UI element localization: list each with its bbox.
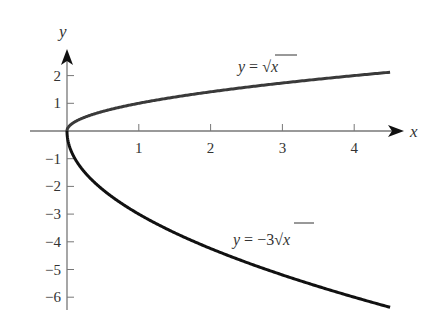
- y-tick-label: 1: [54, 95, 62, 111]
- curve-sqrt-x: [67, 72, 390, 131]
- y-tick-label: −1: [45, 151, 61, 167]
- y-ticks: 21−1−2−3−4−5−6: [45, 68, 74, 306]
- curve-neg-3-sqrt-x: [67, 131, 390, 307]
- x-tick-label: 4: [350, 140, 358, 156]
- y-tick-label: −3: [45, 206, 61, 222]
- y-tick-label: 2: [54, 68, 62, 84]
- y-axis-label: y: [57, 22, 67, 41]
- x-axis-label: x: [409, 122, 418, 141]
- x-ticks: 1234: [135, 124, 358, 156]
- y-tick-label: −5: [45, 262, 61, 278]
- axes: [30, 49, 404, 310]
- label-neg-3-sqrt-x: y = −3√x: [231, 231, 290, 249]
- y-tick-label: −2: [45, 178, 61, 194]
- y-tick-label: −4: [45, 234, 61, 250]
- label-sqrt-x: y = √x: [236, 58, 278, 76]
- y-tick-label: −6: [45, 289, 61, 305]
- x-tick-label: 1: [135, 140, 143, 156]
- x-tick-label: 2: [207, 140, 215, 156]
- chart: 1234 21−1−2−3−4−5−6 x y y = √x y = −3√x: [0, 0, 448, 324]
- x-tick-label: 3: [279, 140, 287, 156]
